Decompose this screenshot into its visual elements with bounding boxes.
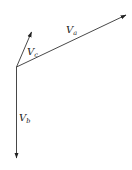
vector-vb-label: Vb: [19, 112, 30, 125]
vector-vb: Vb: [17, 67, 31, 158]
vector-va-label: Va: [66, 24, 77, 37]
vector-va: Va: [17, 15, 127, 67]
vector-va-line: [17, 15, 127, 67]
vector-diagram: Va Vc Vb: [0, 0, 132, 170]
vector-vc-label: Vc: [27, 46, 38, 59]
